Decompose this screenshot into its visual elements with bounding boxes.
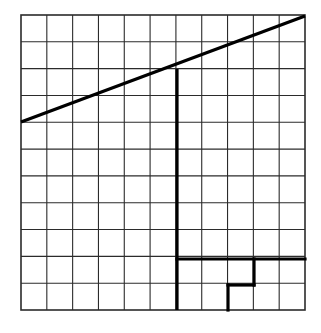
figure-root: Grid with diagonal line and bold step ou… — [0, 0, 321, 333]
grid-figure — [0, 0, 321, 333]
